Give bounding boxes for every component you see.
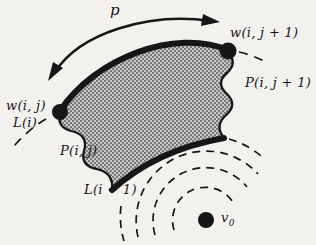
label-v0-subscript: 0: [229, 218, 235, 228]
label-w-i-j-plus-1: w(i, j + 1): [230, 26, 298, 40]
source-dot-v0: [198, 212, 214, 228]
label-v0-base: v: [221, 210, 229, 225]
label-L-i: L(i): [13, 116, 37, 130]
label-v0: v0: [221, 211, 235, 228]
label-w-i-j: w(i, j): [6, 99, 46, 113]
figure-wavefront-diagram: p w(i, j + 1) P(i, j + 1) w(i, j) L(i) P…: [0, 0, 316, 245]
label-path-p: p: [110, 2, 120, 19]
label-L-i-minus-1: L(i − 1): [84, 183, 137, 197]
vertex-dot-w-i-j: [52, 104, 68, 120]
label-P-i-j-plus-1: P(i, j + 1): [245, 76, 311, 90]
label-P-i-j: P(i, j): [60, 144, 97, 158]
vertex-dot-w-i-j-plus-1: [220, 43, 237, 60]
